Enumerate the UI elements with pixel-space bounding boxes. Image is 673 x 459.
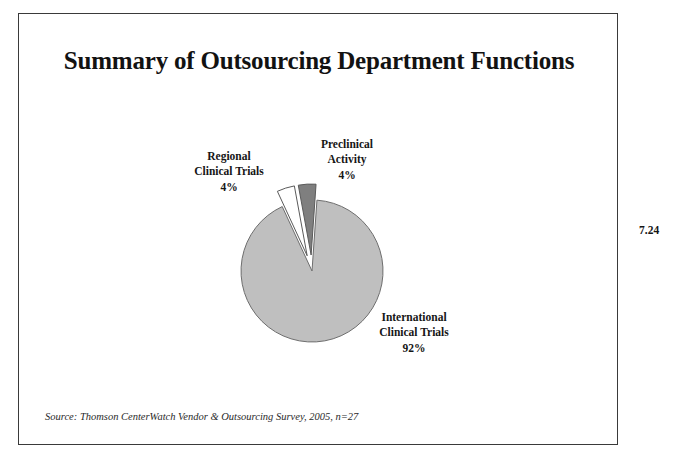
pie-label-line2: Activity (328, 153, 367, 165)
pie-label-international-clinical-trials: International Clinical Trials 92% (349, 310, 479, 356)
slide-frame: Summary of Outsourcing Department Functi… (18, 13, 618, 445)
pie-label-regional-clinical-trials: Regional Clinical Trials 4% (169, 149, 289, 195)
pie-label-line1: Regional (207, 150, 250, 162)
pie-label-line2: Clinical Trials (379, 326, 449, 338)
pie-label-value: 92% (349, 341, 479, 356)
pie-chart: International Clinical Trials 92% Region… (19, 14, 619, 446)
pie-label-line2: Clinical Trials (194, 165, 264, 177)
pie-label-line1: International (381, 311, 446, 323)
page-number: 7.24 (639, 224, 659, 236)
pie-label-value: 4% (169, 180, 289, 195)
pie-label-preclinical-activity: Preclinical Activity 4% (292, 137, 402, 183)
pie-label-value: 4% (292, 168, 402, 183)
pie-label-line1: Preclinical (321, 138, 373, 150)
pie-chart-svg (19, 14, 619, 446)
source-note: Source: Thomson CenterWatch Vendor & Out… (45, 411, 358, 422)
